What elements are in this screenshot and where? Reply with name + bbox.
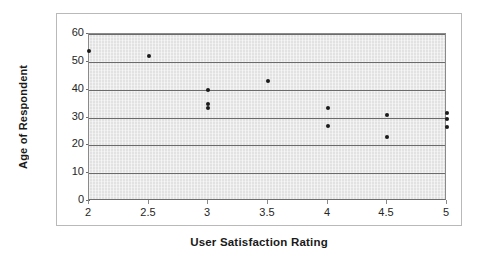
data-point bbox=[206, 106, 210, 110]
x-axis-tick-label: 4.5 bbox=[369, 206, 403, 218]
data-point bbox=[385, 135, 389, 139]
x-axis-tick-mark bbox=[327, 200, 328, 204]
y-axis-tick-label: 40 bbox=[58, 83, 84, 94]
data-point bbox=[385, 113, 389, 117]
x-axis-tick-label: 2 bbox=[71, 206, 105, 218]
x-axis-tick-mark bbox=[446, 200, 447, 204]
data-point bbox=[326, 106, 330, 110]
y-axis-tick-label: 50 bbox=[58, 55, 84, 66]
x-axis-tick-label: 3.5 bbox=[250, 206, 284, 218]
x-axis-tick-label: 5 bbox=[429, 206, 463, 218]
data-point bbox=[147, 54, 151, 58]
x-axis-tick-label: 3 bbox=[190, 206, 224, 218]
y-axis-tick-label: 60 bbox=[58, 27, 84, 38]
x-axis-tick-mark bbox=[148, 200, 149, 204]
gridline bbox=[89, 145, 445, 146]
x-axis-tick-label: 4 bbox=[310, 206, 344, 218]
y-axis-tick-label: 20 bbox=[58, 138, 84, 149]
x-axis-tick-group: 22.533.544.55 bbox=[88, 200, 446, 222]
gridline bbox=[89, 62, 445, 63]
y-axis-tick-group: 0102030405060 bbox=[56, 33, 84, 200]
data-point bbox=[87, 49, 91, 53]
y-axis-title: Age of Respondent bbox=[14, 42, 32, 192]
gridline bbox=[89, 34, 445, 35]
data-point bbox=[206, 88, 210, 92]
gridline bbox=[89, 118, 445, 119]
plot-background-texture bbox=[89, 34, 445, 199]
gridline bbox=[89, 173, 445, 174]
gridline bbox=[89, 90, 445, 91]
data-point bbox=[206, 102, 210, 106]
x-axis-tick-mark bbox=[88, 200, 89, 204]
plot-area bbox=[88, 33, 446, 200]
scatter-chart-figure: Age of Respondent 0102030405060 22.533.5… bbox=[0, 0, 484, 269]
data-point bbox=[326, 124, 330, 128]
y-axis-tick-label: 0 bbox=[58, 194, 84, 205]
y-axis-tick-label: 10 bbox=[58, 166, 84, 177]
x-axis-tick-label: 2.5 bbox=[131, 206, 165, 218]
data-point bbox=[445, 117, 449, 121]
x-axis-tick-mark bbox=[207, 200, 208, 204]
data-point bbox=[266, 79, 270, 83]
x-axis-tick-mark bbox=[267, 200, 268, 204]
y-axis-tick-label: 30 bbox=[58, 111, 84, 122]
x-axis-tick-mark bbox=[386, 200, 387, 204]
x-axis-title: User Satisfaction Rating bbox=[56, 236, 462, 248]
